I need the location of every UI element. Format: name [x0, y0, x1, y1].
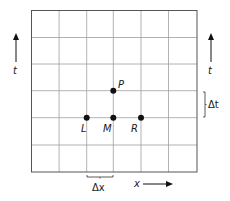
- label-m: M: [103, 123, 112, 134]
- label-r: R: [131, 123, 138, 134]
- dx-bracket: [87, 175, 113, 179]
- dt-bracket: [203, 92, 207, 117]
- x-arrow-icon: [143, 181, 173, 187]
- x-label: x: [133, 178, 140, 189]
- label-l: L: [81, 123, 87, 134]
- label-p: P: [118, 79, 125, 90]
- point-m: [110, 115, 116, 121]
- point-l: [84, 115, 90, 121]
- t-label-left: t: [13, 65, 18, 76]
- fd-grid-diagram: P L M R t t Δt Δx x: [0, 0, 230, 201]
- dx-label: Δx: [92, 182, 105, 193]
- t-label-right: t: [208, 65, 213, 76]
- point-r: [138, 115, 144, 121]
- t-arrow-right-icon: [208, 33, 214, 62]
- t-arrow-left-icon: [13, 33, 19, 62]
- point-p: [110, 88, 116, 94]
- dt-label: Δt: [208, 99, 219, 110]
